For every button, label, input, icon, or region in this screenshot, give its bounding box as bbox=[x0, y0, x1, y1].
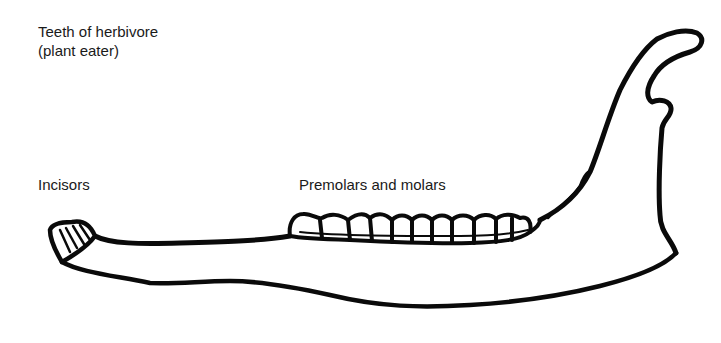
jaw-lower-edge bbox=[62, 253, 676, 306]
cheek-teeth-row bbox=[290, 214, 531, 243]
jaw-inner-line bbox=[548, 172, 588, 218]
jaw-upper-edge bbox=[95, 236, 290, 243]
jaw-ramus-back bbox=[540, 31, 702, 253]
herbivore-jaw-illustration bbox=[0, 0, 721, 343]
